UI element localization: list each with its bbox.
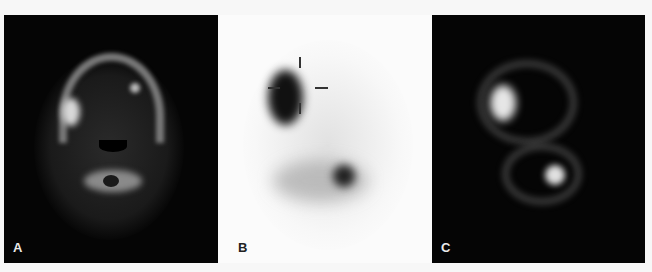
panel-label-c: C: [441, 240, 450, 255]
panel-c-fused-image: C: [432, 15, 645, 263]
lower-contour: [502, 143, 582, 205]
crosshair-right: [315, 87, 328, 89]
body-background-uptake: [243, 40, 413, 250]
crosshair-top: [299, 57, 301, 68]
mandible-bright-spot: [62, 98, 80, 126]
panel-a-ct-image: A: [4, 15, 218, 263]
crosshair-bottom: [299, 103, 301, 114]
fused-hot-spot-left: [490, 85, 516, 121]
hot-spot-right: [333, 165, 355, 187]
airway: [99, 140, 127, 152]
fused-hot-spot-right: [545, 165, 565, 185]
panel-b-spect-image: B: [218, 15, 432, 263]
crosshair-left: [268, 87, 280, 89]
mandible-spot-right: [130, 83, 140, 93]
hot-spot-left: [268, 70, 303, 125]
panel-label-a: A: [13, 240, 22, 255]
spinal-canal: [103, 175, 119, 187]
panel-label-b: B: [238, 240, 247, 255]
